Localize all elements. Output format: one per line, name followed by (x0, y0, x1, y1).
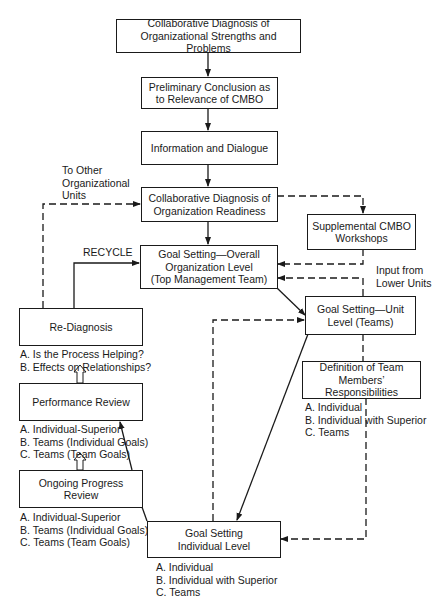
list-rediagnosis-items: A. Is the Process Helping? B. Effects on… (20, 348, 151, 373)
label-line: Input from (376, 264, 431, 277)
box-text: Review (64, 489, 98, 502)
box-text: Preliminary Conclusion as (149, 81, 270, 94)
list-item: C. Teams (305, 426, 426, 439)
box-text: Performance Review (32, 396, 129, 409)
arrow-recycle (74, 263, 139, 308)
box-ongoing-progress-review: Ongoing Progress Review (19, 470, 143, 508)
label-line: To Other (62, 164, 130, 177)
list-individual-items: A. Individual B. Individual with Superio… (156, 561, 277, 599)
arrow-individual-to-unit (213, 320, 304, 521)
box-performance-review: Performance Review (19, 383, 143, 421)
box-goal-setting-unit: Goal Setting—Unit Level (Teams) (305, 296, 416, 335)
arrow-supplemental-to-overall (278, 249, 363, 264)
box-text: Goal Setting (185, 527, 243, 540)
box-text: Organizational Strengths and Problems (117, 30, 300, 55)
box-text: Re-Diagnosis (49, 321, 112, 334)
list-definition-items: A. Individual B. Individual with Superio… (305, 401, 426, 439)
box-information-dialogue: Information and Dialogue (141, 131, 278, 165)
box-text: Goal Setting—Unit (317, 303, 404, 316)
box-goal-setting-overall: Goal Setting—Overall Organization Level … (140, 245, 278, 289)
label-line: Organizational (62, 177, 130, 190)
box-goal-setting-individual: Goal Setting Individual Level (147, 521, 281, 558)
box-text: Individual Level (178, 540, 250, 553)
label-recycle: RECYCLE (83, 246, 133, 259)
label-line: Lower Units (376, 277, 431, 290)
box-text: to Relevance of CMBO (156, 93, 263, 106)
list-item: C. Teams (156, 586, 277, 599)
list-item: A. Individual-Superior (20, 423, 148, 436)
box-organizational-diagnosis: Collaborative Diagnosis of Organizationa… (116, 19, 301, 53)
list-item: A. Individual (156, 561, 277, 574)
list-item: B. Teams (Individual Goals) (20, 524, 148, 537)
box-supplemental-workshops: Supplemental CMBO Workshops (307, 214, 416, 250)
list-item: A. Is the Process Helping? (20, 348, 151, 361)
list-item: A. Individual-Superior (20, 511, 148, 524)
box-text: Information and Dialogue (151, 142, 268, 155)
box-organization-readiness: Collaborative Diagnosis of Organization … (141, 187, 278, 222)
list-item: B. Individual with Superior (156, 574, 277, 587)
list-item: C. Teams (Team Goals) (20, 448, 148, 461)
list-performance-items: A. Individual-Superior B. Teams (Individ… (20, 423, 148, 461)
box-text: Collaborative Diagnosis of (148, 17, 270, 30)
box-text: Members’ Responsibilities (303, 374, 420, 399)
box-text: Ongoing Progress (39, 477, 124, 490)
box-text: Organization Readiness (153, 205, 265, 218)
label-line: Units (62, 189, 130, 202)
arrow-overall-to-unit (277, 288, 305, 315)
box-definition-responsibilities: Definition of Team Members’ Responsibili… (302, 361, 421, 399)
list-item: B. Effects on Relationships? (20, 361, 151, 374)
list-item: C. Teams (Team Goals) (20, 536, 148, 549)
box-text: Definition of Team (320, 361, 404, 374)
box-text: Organization Level (165, 261, 253, 274)
arrow-input-lower-units (278, 278, 363, 296)
label-line: RECYCLE (83, 246, 133, 259)
box-text: (Top Management Team) (151, 273, 268, 286)
box-text: Level (Teams) (328, 316, 394, 329)
arrow-unit-to-individual (237, 334, 308, 520)
list-item: B. Individual with Superior (305, 414, 426, 427)
box-preliminary-conclusion: Preliminary Conclusion as to Relevance o… (141, 77, 278, 109)
box-text: Goal Setting—Overall (158, 248, 260, 261)
list-ongoing-items: A. Individual-Superior B. Teams (Individ… (20, 511, 148, 549)
box-text: Collaborative Diagnosis of (149, 192, 271, 205)
label-input-lower-units: Input from Lower Units (376, 264, 431, 289)
box-text: Supplemental CMBO (312, 220, 411, 233)
label-to-other-units: To Other Organizational Units (62, 164, 130, 202)
list-item: B. Teams (Individual Goals) (20, 436, 148, 449)
arrow-readiness-to-supplemental (277, 196, 363, 213)
box-text: Workshops (335, 232, 387, 245)
box-re-diagnosis: Re-Diagnosis (19, 308, 143, 346)
list-item: A. Individual (305, 401, 426, 414)
